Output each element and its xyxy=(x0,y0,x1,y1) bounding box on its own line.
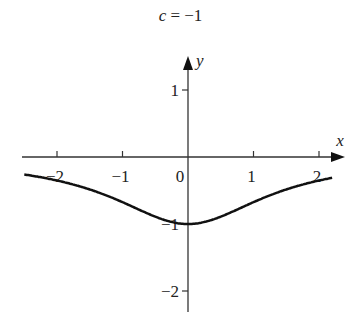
axes: xy−2−1121−1−20 xyxy=(22,51,345,312)
x-tick-label: −1 xyxy=(111,167,129,186)
y-tick-label: −1 xyxy=(161,215,179,234)
x-axis-arrow-icon xyxy=(331,152,345,162)
y-tick-label: 1 xyxy=(171,81,180,100)
y-tick-label: −2 xyxy=(161,282,179,301)
plot-area: xy−2−1121−1−20 xyxy=(0,0,361,332)
x-tick-label: −2 xyxy=(46,167,64,186)
y-axis-label: y xyxy=(194,51,204,70)
x-axis-label: x xyxy=(335,131,344,150)
origin-label: 0 xyxy=(176,167,185,186)
x-tick-label: 1 xyxy=(247,167,256,186)
y-axis-arrow-icon xyxy=(183,56,193,70)
x-tick-label: 2 xyxy=(313,167,322,186)
